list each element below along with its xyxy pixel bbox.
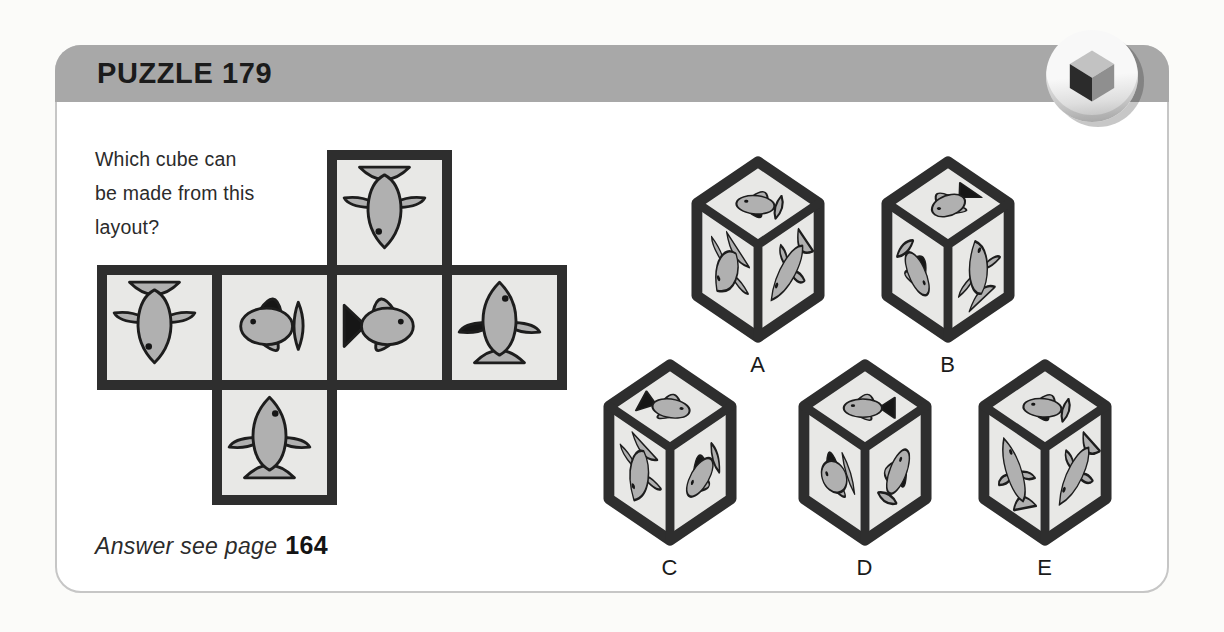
option-e-cube (970, 349, 1120, 552)
option-c-label: C (595, 555, 745, 581)
option-d: D (790, 349, 940, 581)
puzzle-header: PUZZLE 179 (55, 45, 1169, 102)
option-b: B (873, 146, 1023, 378)
answer-text: Answer see page (95, 533, 277, 559)
cube-net (97, 150, 567, 505)
option-b-cube (873, 146, 1023, 349)
option-c: C (595, 349, 745, 581)
option-a: A (683, 146, 833, 378)
puzzle-title: PUZZLE 179 (55, 45, 1169, 102)
option-a-cube (683, 146, 833, 349)
option-d-cube (790, 349, 940, 552)
option-e: E (970, 349, 1120, 581)
cube-icon (1066, 47, 1118, 105)
answer-note: Answer see page164 (95, 531, 328, 560)
answer-page-number: 164 (285, 531, 328, 559)
option-e-label: E (970, 555, 1120, 581)
cube-puzzle-badge (1046, 30, 1138, 122)
option-c-cube (595, 349, 745, 552)
option-d-label: D (790, 555, 940, 581)
